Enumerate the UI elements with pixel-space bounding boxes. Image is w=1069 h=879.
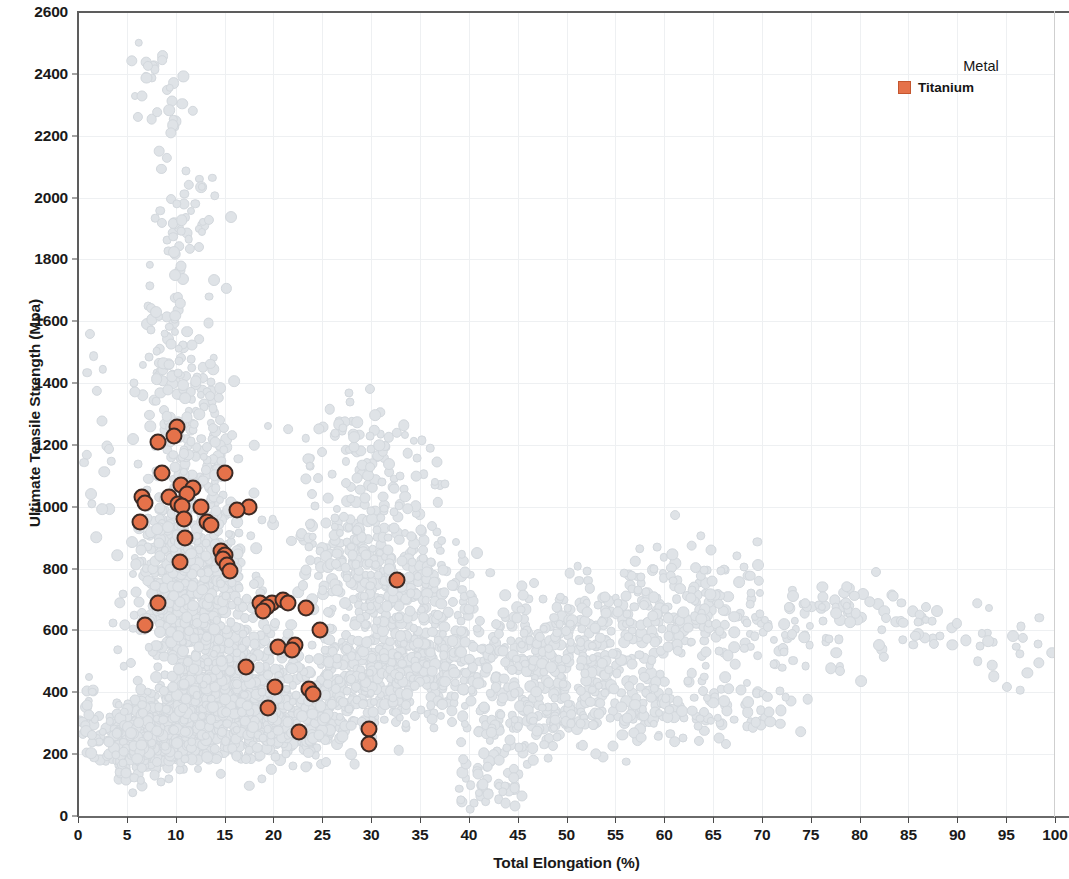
legend-item-label: Titanium <box>918 80 974 95</box>
x-tick-mark <box>371 817 372 823</box>
x-tick-mark <box>127 817 128 823</box>
x-tick-mark <box>713 817 714 823</box>
x-tick-label: 80 <box>851 826 868 844</box>
x-tick-mark <box>322 817 323 823</box>
x-tick-mark <box>176 817 177 823</box>
legend-title: Metal <box>914 58 1048 74</box>
x-tick-label: 0 <box>74 826 82 844</box>
scatter-chart: Ultimate Tensile Strength (Mpa) 02004006… <box>0 0 1069 879</box>
x-tick-label: 45 <box>509 826 526 844</box>
x-tick-label: 30 <box>363 826 380 844</box>
x-tick-mark <box>1055 817 1056 823</box>
x-tick-mark <box>1006 817 1007 823</box>
legend-items: Titanium <box>898 80 1048 95</box>
x-tick-mark <box>273 817 274 823</box>
x-tick-mark <box>420 817 421 823</box>
legend-item[interactable]: Titanium <box>898 80 1048 95</box>
x-tick-label: 25 <box>314 826 331 844</box>
x-tick-mark <box>860 817 861 823</box>
x-tick-label: 20 <box>265 826 282 844</box>
x-tick-mark <box>518 817 519 823</box>
x-tick-label: 55 <box>607 826 624 844</box>
x-tick-label: 85 <box>900 826 917 844</box>
x-tick-mark <box>908 817 909 823</box>
legend-swatch-icon <box>898 81 911 94</box>
x-tick-label: 90 <box>949 826 966 844</box>
x-tick-mark <box>664 817 665 823</box>
x-tick-label: 5 <box>123 826 131 844</box>
x-tick-label: 35 <box>412 826 429 844</box>
x-tick-mark <box>78 817 79 823</box>
x-tick-label: 75 <box>802 826 819 844</box>
legend: Metal Titanium <box>898 58 1048 95</box>
x-tick-mark <box>225 817 226 823</box>
x-tick-label: 50 <box>558 826 575 844</box>
x-tick-label: 70 <box>753 826 770 844</box>
x-axis-title: Total Elongation (%) <box>78 854 1055 872</box>
x-tick-mark <box>762 817 763 823</box>
x-tick-label: 60 <box>656 826 673 844</box>
x-tick-label: 100 <box>1042 826 1067 844</box>
x-tick-label: 65 <box>705 826 722 844</box>
x-tick-mark <box>811 817 812 823</box>
x-tick-label: 15 <box>216 826 233 844</box>
x-axis-tick-labels: 0510152025303540455055606570758085909510… <box>0 0 1069 879</box>
x-tick-mark <box>567 817 568 823</box>
x-tick-label: 10 <box>167 826 184 844</box>
x-tick-mark <box>469 817 470 823</box>
x-tick-mark <box>615 817 616 823</box>
x-tick-label: 95 <box>998 826 1015 844</box>
x-tick-mark <box>957 817 958 823</box>
x-tick-label: 40 <box>460 826 477 844</box>
